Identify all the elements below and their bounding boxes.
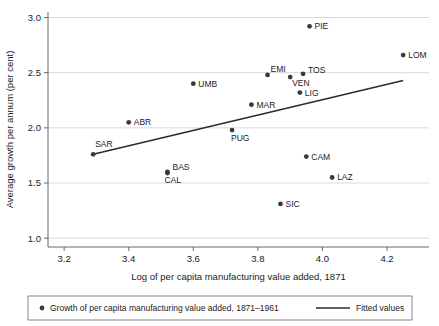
data-point-laz [330, 175, 335, 180]
x-tick-label-2: 3.6 [187, 253, 200, 264]
chart-canvas: 1.01.52.02.53.03.23.43.63.84.04.2Log of … [0, 0, 439, 326]
legend-scatter-label: Growth of per capita manufacturing value… [50, 303, 279, 313]
point-label-cam: CAM [311, 152, 330, 162]
data-point-pug [230, 128, 235, 133]
point-label-mar: MAR [256, 100, 275, 110]
x-tick-label-4: 4.0 [316, 253, 329, 264]
x-tick-label-1: 3.4 [122, 253, 135, 264]
point-label-bas: BAS [172, 162, 189, 172]
point-label-cal: CAL [164, 175, 181, 185]
point-label-emi: EMI [271, 64, 286, 74]
legend-line-label: Fitted values [356, 303, 404, 313]
data-point-abr [126, 120, 131, 125]
data-point-umb [191, 81, 196, 86]
data-point-lig [297, 90, 302, 95]
point-label-sar: SAR [95, 139, 112, 149]
point-label-lig: LIG [305, 88, 319, 98]
x-tick-label-3: 3.8 [251, 253, 264, 264]
data-point-sic [278, 202, 283, 207]
point-label-tos: TOS [308, 65, 326, 75]
y-tick-label-3: 2.5 [28, 67, 41, 78]
data-point-sar [91, 152, 96, 157]
point-label-umb: UMB [198, 79, 217, 89]
data-point-lom [401, 53, 406, 58]
y-tick-label-4: 3.0 [28, 12, 41, 23]
point-label-lom: LOM [408, 50, 426, 60]
point-label-pug: PUG [231, 133, 249, 143]
x-tick-label-5: 4.2 [380, 253, 393, 264]
x-axis-title: Log of per capita manufacturing value ad… [131, 271, 345, 282]
y-tick-label-0: 1.0 [28, 233, 41, 244]
legend-marker-icon [40, 306, 45, 311]
point-label-pie: PIE [315, 21, 329, 31]
y-axis-title: Average growth per annum (per cent) [4, 51, 15, 209]
y-tick-label-1: 1.5 [28, 177, 41, 188]
data-point-tos [301, 71, 306, 76]
scatter-plot-figure: 1.01.52.02.53.03.23.43.63.84.04.2Log of … [0, 0, 439, 326]
x-tick-label-0: 3.2 [58, 253, 71, 264]
y-tick-label-2: 2.0 [28, 122, 41, 133]
point-label-laz: LAZ [337, 172, 353, 182]
point-label-sic: SIC [285, 199, 299, 209]
data-point-cam [304, 154, 309, 159]
data-point-mar [249, 102, 254, 107]
point-label-abr: ABR [134, 117, 151, 127]
data-point-pie [307, 24, 312, 29]
data-point-emi [265, 72, 270, 77]
